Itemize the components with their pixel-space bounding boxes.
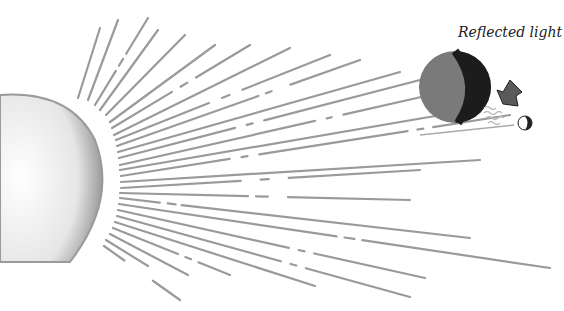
arrow-icon bbox=[497, 80, 522, 106]
diagram-svg bbox=[0, 0, 564, 311]
sun bbox=[0, 95, 102, 262]
reflected-light-label: Reflected light bbox=[458, 24, 562, 40]
illustration: Reflected light bbox=[0, 0, 564, 311]
moon bbox=[518, 116, 532, 130]
earth bbox=[419, 51, 491, 123]
sun-rays bbox=[78, 18, 550, 300]
